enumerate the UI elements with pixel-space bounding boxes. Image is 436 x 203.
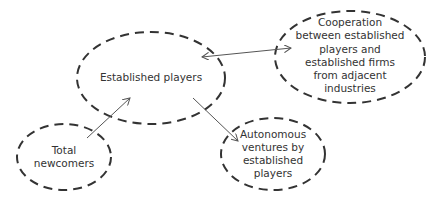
arrow-newcomers-to-established (87, 98, 130, 138)
label-line: industries (285, 82, 415, 95)
label-line: players (228, 167, 318, 180)
label-line: Cooperation (285, 16, 415, 29)
label-line: players and (285, 43, 415, 56)
label-line: Autonomous (228, 128, 318, 141)
label-line: established (228, 154, 318, 167)
label-total-newcomers: Total newcomers (24, 144, 104, 170)
label-autonomous-ventures: Autonomous ventures by established playe… (228, 128, 318, 180)
label-established-players: Established players (96, 71, 206, 84)
label-line: from adjacent (285, 69, 415, 82)
double-arrow-established-cooperation (202, 48, 291, 57)
label-line: between established (285, 29, 415, 42)
label-line: Established players (96, 71, 206, 84)
label-cooperation: Cooperation between established players … (285, 16, 415, 96)
label-line: newcomers (24, 157, 104, 170)
label-line: Total (24, 144, 104, 157)
label-line: established firms (285, 56, 415, 69)
label-line: ventures by (228, 141, 318, 154)
